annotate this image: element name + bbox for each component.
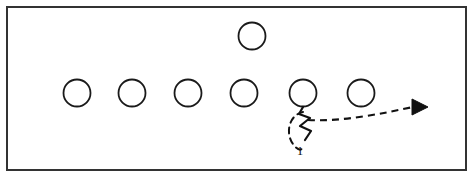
player-circle-1[interactable] xyxy=(64,80,91,107)
player-circle-2[interactable] xyxy=(119,80,146,107)
player-circle-5[interactable] xyxy=(290,80,317,107)
player-circle-3[interactable] xyxy=(175,80,202,107)
play-diagram-canvas: 1 xyxy=(0,0,474,177)
player-circle-4[interactable] xyxy=(231,80,258,107)
route-1-number-label: 1 xyxy=(297,143,304,158)
play-diagram-svg: 1 xyxy=(0,0,474,177)
player-circle-6[interactable] xyxy=(348,80,375,107)
player-circle-7-back[interactable] xyxy=(239,23,266,50)
